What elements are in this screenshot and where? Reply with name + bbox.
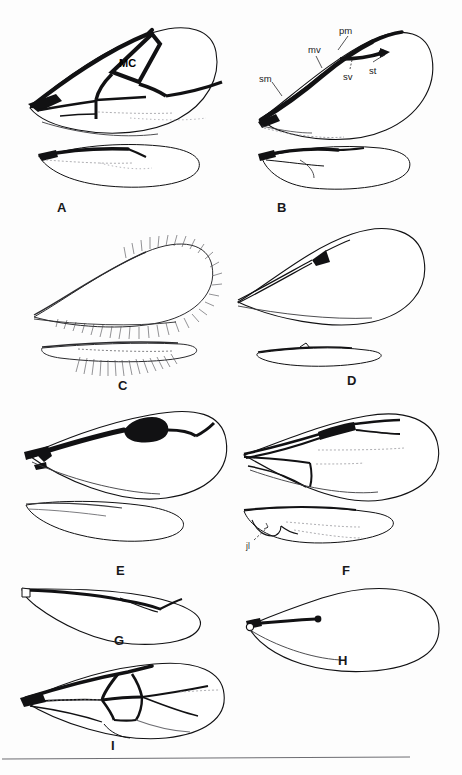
panel-f-hindwing: [244, 507, 393, 543]
panel-letter-a: A: [57, 200, 67, 215]
panel-a-hindwing: [38, 145, 199, 188]
panel-i-wing: [20, 663, 224, 739]
wing-illustration-plate: A B C D E F G H I MC sm mv pm sv st jl: [0, 0, 462, 775]
panel-g-wing: [22, 588, 200, 644]
panel-letter-d: D: [347, 373, 357, 388]
panel-letter-c: C: [118, 378, 128, 393]
marginal-vein-label: mv: [308, 44, 321, 55]
submarginal-vein-label: sm: [259, 73, 272, 84]
panel-c-forewing: [34, 235, 222, 339]
panel-letter-g: G: [114, 633, 125, 648]
panel-a-forewing: [28, 28, 222, 136]
panel-c-hindwing: [42, 342, 197, 376]
panel-d-forewing: [238, 229, 425, 325]
bottom-rule: [2, 757, 410, 759]
panel-e-hindwing: [26, 501, 184, 541]
panel-b-forewing: [258, 32, 433, 139]
panel-letter-h: H: [338, 653, 348, 668]
panel-e-forewing: [24, 411, 227, 499]
panel-b-hindwing: [258, 146, 410, 189]
panel-letter-b: B: [277, 200, 287, 215]
stigma-label: st: [369, 65, 376, 76]
panel-f-forewing: [244, 414, 439, 501]
marginal-cell-label: MC: [119, 57, 136, 69]
panel-letter-e: E: [116, 563, 125, 578]
stigmal-vein-label: sv: [343, 71, 353, 82]
postmarginal-vein-label: pm: [339, 25, 352, 36]
panel-d-hindwing: [257, 343, 381, 366]
panel-letter-f: F: [342, 563, 350, 578]
panel-letter-i: I: [111, 738, 115, 753]
jugal-lobe-label: jl: [246, 541, 250, 551]
wing-figures-drawing: [0, 0, 462, 775]
